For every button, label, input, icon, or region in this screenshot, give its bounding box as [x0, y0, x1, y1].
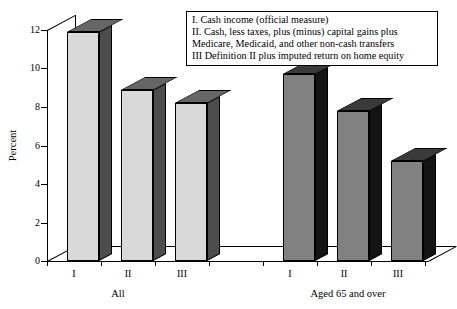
bar-top-face [391, 148, 447, 161]
legend-line-3: Medicare, Medicaid, and other non-cash t… [192, 38, 433, 50]
bar-side-face [153, 83, 166, 261]
y-tick-8 [41, 107, 47, 108]
y-tick-label-2: 2 [16, 218, 40, 228]
x-tick-1 [101, 261, 102, 266]
y-tick-label-12: 12 [16, 25, 40, 35]
y-tick-6 [41, 146, 47, 147]
bar-top-face [175, 90, 231, 103]
y-tick-12 [41, 30, 47, 31]
bar-top-face [121, 77, 177, 90]
x-group-label-aged65: Aged 65 and over [288, 288, 408, 299]
x-tick-0 [47, 261, 48, 266]
bar-side-face [315, 67, 328, 261]
legend-box: I. Cash income (official measure) II. Ca… [186, 11, 438, 66]
x-label-all-II: II [108, 268, 148, 279]
y-tick-10 [41, 68, 47, 69]
bar-side-face [369, 104, 382, 261]
x-label-aged65-III: III [378, 268, 418, 279]
x-tick-2 [155, 261, 156, 266]
x-tick-5 [317, 261, 318, 266]
y-tick-label-10: 10 [16, 63, 40, 73]
bar-all-I [67, 0, 99, 261]
y-tick-label-0: 0 [16, 256, 40, 266]
x-label-all-III: III [162, 268, 202, 279]
x-tick-4 [263, 261, 264, 266]
y-tick-2 [41, 223, 47, 224]
y-tick-4 [41, 184, 47, 185]
x-label-aged65-I: I [270, 268, 310, 279]
x-group-label-all: All [88, 288, 148, 299]
y-axis-line [47, 30, 48, 262]
legend-line-2: II. Cash, less taxes, plus (minus) capit… [192, 26, 433, 38]
bar-top-face [67, 19, 123, 32]
bar-front-face [337, 111, 369, 261]
y-tick-label-8: 8 [16, 102, 40, 112]
bar-side-face [207, 96, 220, 261]
bar-front-face [283, 74, 315, 261]
bar-front-face [391, 161, 423, 261]
bar-side-face [423, 154, 436, 261]
bar-all-II [121, 0, 153, 261]
bar-front-face [175, 103, 207, 261]
y-tick-label-6: 6 [16, 141, 40, 151]
x-label-all-I: I [54, 268, 94, 279]
bar-front-face [121, 90, 153, 261]
legend-line-1: I. Cash income (official measure) [192, 14, 433, 26]
x-tick-3 [209, 261, 210, 266]
legend-line-4: III Definition II plus imputed return on… [192, 50, 433, 62]
y-tick-label-4: 4 [16, 179, 40, 189]
x-tick-6 [371, 261, 372, 266]
x-tick-7 [425, 261, 426, 266]
x-label-aged65-II: II [324, 268, 364, 279]
bar-top-face [337, 98, 393, 111]
bar-side-face [99, 25, 112, 261]
bar-front-face [67, 32, 99, 261]
